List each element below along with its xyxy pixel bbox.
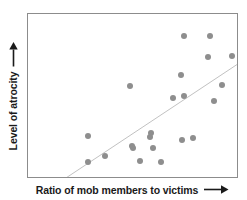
data-point: [205, 54, 211, 60]
y-axis-label: Level of atrocity: [7, 41, 19, 150]
up-arrow-icon: [9, 41, 18, 67]
data-point: [179, 137, 185, 143]
right-arrow-icon: [203, 185, 229, 194]
plot-area: [27, 13, 238, 178]
data-point: [127, 83, 133, 89]
data-point: [170, 95, 176, 101]
y-axis-label-group: Level of atrocity: [0, 13, 26, 178]
data-point: [181, 93, 187, 99]
data-point: [211, 98, 217, 104]
x-axis-label: Ratio of mob members to victims: [36, 184, 199, 196]
data-point: [178, 72, 184, 78]
plot-inner: [28, 14, 237, 177]
trend-line-layer: [28, 14, 237, 177]
x-axis-label-group: Ratio of mob members to victims: [27, 181, 238, 198]
scatter-plot-figure: Level of atrocity Ratio of mob members t…: [0, 0, 247, 200]
data-point: [181, 33, 187, 39]
y-axis-label-text: Level of atrocity: [7, 71, 19, 150]
data-point: [85, 133, 91, 139]
data-point: [150, 145, 156, 151]
data-point: [85, 159, 91, 165]
